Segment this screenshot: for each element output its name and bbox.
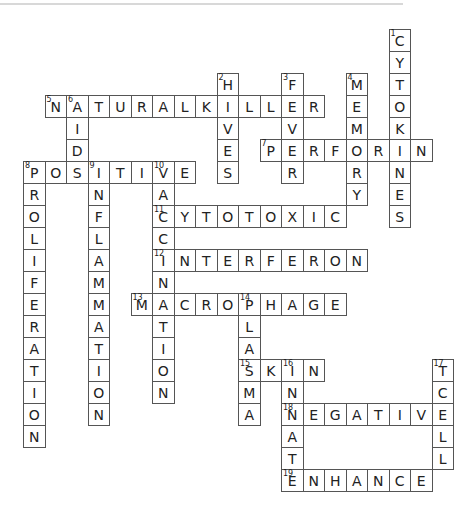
crossword-cell[interactable]: R [281, 161, 304, 184]
crossword-cell[interactable]: I [303, 205, 326, 228]
crossword-cell[interactable]: T [152, 315, 175, 338]
crossword-cell[interactable]: 10V [152, 161, 175, 184]
crossword-cell[interactable]: K [389, 117, 412, 140]
crossword-cell[interactable]: F [23, 271, 46, 294]
crossword-cell[interactable]: I [66, 117, 89, 140]
crossword-cell[interactable]: 3F [281, 73, 304, 96]
crossword-cell[interactable]: A [152, 293, 175, 316]
crossword-cell[interactable]: F [324, 139, 347, 162]
crossword-cell[interactable]: E [389, 183, 412, 206]
crossword-cell[interactable]: A [281, 293, 304, 316]
crossword-cell[interactable]: E [410, 469, 433, 492]
crossword-cell[interactable]: M [88, 293, 111, 316]
crossword-cell[interactable]: R [195, 293, 218, 316]
crossword-cell[interactable]: A [88, 249, 111, 272]
crossword-cell[interactable]: O [260, 205, 283, 228]
crossword-cell[interactable]: A [152, 95, 175, 118]
crossword-cell[interactable]: E [324, 293, 347, 316]
crossword-cell[interactable]: M [346, 117, 369, 140]
crossword-cell[interactable]: I [389, 139, 412, 162]
crossword-cell[interactable]: T [23, 359, 46, 382]
crossword-cell[interactable]: V [217, 117, 240, 140]
crossword-cell[interactable]: N [303, 359, 326, 382]
crossword-cell[interactable]: R [346, 161, 369, 184]
crossword-cell[interactable]: X [281, 205, 304, 228]
crossword-cell[interactable]: O [346, 139, 369, 162]
crossword-cell[interactable]: E [23, 293, 46, 316]
crossword-cell[interactable]: I [88, 359, 111, 382]
crossword-cell[interactable]: R [367, 139, 390, 162]
crossword-cell[interactable]: L [260, 95, 283, 118]
crossword-cell[interactable]: L [174, 95, 197, 118]
crossword-cell[interactable]: C [389, 469, 412, 492]
crossword-cell[interactable]: D [66, 139, 89, 162]
crossword-cell[interactable]: U [109, 95, 132, 118]
crossword-cell[interactable]: L [23, 227, 46, 250]
crossword-cell[interactable]: E [217, 139, 240, 162]
crossword-cell[interactable]: V [281, 117, 304, 140]
crossword-cell[interactable]: N [303, 469, 326, 492]
crossword-cell[interactable]: O [389, 95, 412, 118]
crossword-cell[interactable]: T [88, 95, 111, 118]
crossword-cell[interactable]: 4M [346, 73, 369, 96]
crossword-cell[interactable]: E [281, 139, 304, 162]
crossword-cell[interactable]: L [238, 95, 261, 118]
crossword-cell[interactable]: A [238, 337, 261, 360]
crossword-cell[interactable]: G [324, 403, 347, 426]
crossword-cell[interactable]: R [238, 249, 261, 272]
crossword-cell[interactable]: 5N [45, 95, 68, 118]
crossword-cell[interactable]: 7P [260, 139, 283, 162]
crossword-cell[interactable]: A [152, 183, 175, 206]
crossword-cell[interactable]: Y [346, 183, 369, 206]
crossword-cell[interactable]: O [324, 249, 347, 272]
crossword-cell[interactable]: E [281, 95, 304, 118]
crossword-cell[interactable]: A [23, 337, 46, 360]
crossword-cell[interactable]: F [88, 205, 111, 228]
crossword-cell[interactable]: O [152, 359, 175, 382]
crossword-cell[interactable]: L [238, 315, 261, 338]
crossword-cell[interactable]: H [260, 293, 283, 316]
crossword-cell[interactable]: G [303, 293, 326, 316]
crossword-cell[interactable]: I [131, 161, 154, 184]
crossword-cell[interactable]: E [174, 161, 197, 184]
crossword-cell[interactable]: A [281, 425, 304, 448]
crossword-cell[interactable]: L [88, 227, 111, 250]
crossword-cell[interactable]: T [88, 337, 111, 360]
crossword-cell[interactable]: A [88, 315, 111, 338]
crossword-cell[interactable]: H [324, 469, 347, 492]
crossword-cell[interactable]: F [260, 249, 283, 272]
crossword-cell[interactable]: E [281, 249, 304, 272]
crossword-cell[interactable]: N [346, 249, 369, 272]
crossword-cell[interactable]: N [367, 469, 390, 492]
crossword-cell[interactable]: S [389, 205, 412, 228]
crossword-cell[interactable]: 8P [23, 161, 46, 184]
crossword-cell[interactable]: 9I [88, 161, 111, 184]
crossword-cell[interactable]: O [23, 205, 46, 228]
crossword-cell[interactable]: T [367, 403, 390, 426]
crossword-cell[interactable]: T [238, 205, 261, 228]
crossword-cell[interactable]: 13M [131, 293, 154, 316]
crossword-cell[interactable]: E [217, 249, 240, 272]
crossword-cell[interactable]: 16I [281, 359, 304, 382]
crossword-cell[interactable]: T [281, 447, 304, 470]
crossword-cell[interactable]: R [303, 139, 326, 162]
crossword-cell[interactable]: O [23, 403, 46, 426]
crossword-cell[interactable]: I [23, 249, 46, 272]
crossword-cell[interactable]: N [152, 381, 175, 404]
crossword-cell[interactable]: A [238, 403, 261, 426]
crossword-cell[interactable]: Y [389, 51, 412, 74]
crossword-cell[interactable]: 6A [66, 95, 89, 118]
crossword-cell[interactable]: I [152, 337, 175, 360]
crossword-cell[interactable]: N [88, 183, 111, 206]
crossword-cell[interactable]: I [23, 381, 46, 404]
crossword-cell[interactable]: K [260, 359, 283, 382]
crossword-cell[interactable]: C [432, 381, 455, 404]
crossword-cell[interactable]: N [23, 425, 46, 448]
crossword-cell[interactable]: A [346, 469, 369, 492]
crossword-cell[interactable]: N [389, 161, 412, 184]
crossword-cell[interactable]: R [303, 249, 326, 272]
crossword-cell[interactable]: I [217, 95, 240, 118]
crossword-cell[interactable]: 1C [389, 29, 412, 52]
crossword-cell[interactable]: N [88, 403, 111, 426]
crossword-cell[interactable]: E [303, 403, 326, 426]
